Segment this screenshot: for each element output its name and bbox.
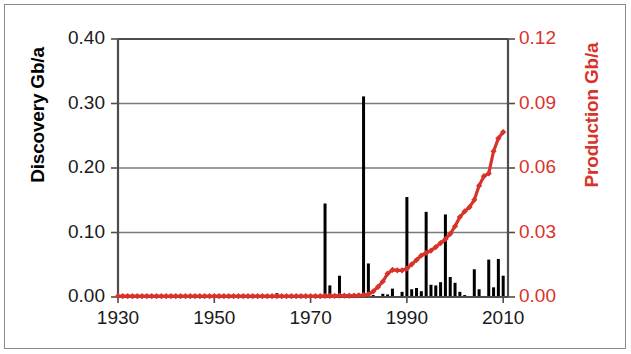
y-axis-tick-label: 0.10 — [43, 221, 105, 243]
bar — [429, 285, 432, 297]
bar — [473, 269, 476, 297]
bar — [502, 276, 505, 297]
bar — [410, 289, 413, 297]
bar — [439, 282, 442, 297]
bar — [492, 287, 495, 297]
y2-axis-tick-label: 0.12 — [519, 27, 581, 49]
bar — [478, 289, 481, 297]
bar — [405, 197, 408, 297]
y2-axis-tick-label: 0.06 — [519, 156, 581, 178]
y2-axis-tick-label: 0.00 — [519, 285, 581, 307]
y2-axis-tick-label: 0.03 — [519, 221, 581, 243]
y-axis-tick-label: 0.40 — [43, 27, 105, 49]
y-axis-tick-label: 0.30 — [43, 92, 105, 114]
x-axis-tick-label: 1970 — [276, 307, 346, 329]
production-markers — [115, 129, 506, 299]
figure-container: Discovery Gb/a Production Gb/a 0.000.100… — [0, 0, 631, 354]
x-axis-tick-label: 1990 — [372, 307, 442, 329]
x-axis-tick-label: 1950 — [179, 307, 249, 329]
bar — [444, 214, 447, 297]
bar — [391, 289, 394, 297]
bar — [449, 277, 452, 297]
bar — [497, 259, 500, 297]
bar — [434, 285, 437, 297]
bar-series — [275, 96, 504, 297]
y-axis-tick-label: 0.20 — [43, 156, 105, 178]
bar — [454, 283, 457, 297]
bar — [324, 203, 327, 297]
bar — [415, 288, 418, 297]
x-axis-tick-label: 2010 — [468, 307, 538, 329]
bar — [362, 96, 365, 297]
bar — [487, 260, 490, 297]
y2-axis-tick-label: 0.09 — [519, 92, 581, 114]
x-axis-tick-label: 1930 — [83, 307, 153, 329]
y-axis-tick-label: 0.00 — [43, 285, 105, 307]
